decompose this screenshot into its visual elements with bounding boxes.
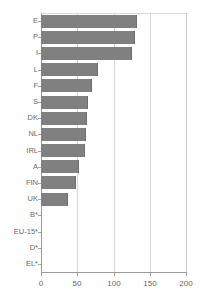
bar-F — [41, 79, 92, 92]
x-tick-label: 150 — [143, 279, 156, 289]
bar-E — [41, 15, 137, 28]
category-label-IRL: IRL — [26, 147, 38, 155]
x-tick-100 — [114, 272, 115, 276]
category-tick — [38, 264, 41, 265]
category-label-EU-15star: EU-15* — [14, 228, 38, 236]
category-tick — [38, 232, 41, 233]
plot-right-border — [186, 13, 187, 273]
bar-IRL — [41, 144, 85, 157]
bar-NL — [41, 128, 86, 141]
category-tick — [38, 248, 41, 249]
bar-FIN — [41, 176, 76, 189]
bar-chart: 050100150200 EPILFSDKNLIRLAFINUKB*EU-15*… — [0, 0, 204, 303]
bar-I — [41, 47, 132, 60]
x-tick-label: 50 — [73, 279, 82, 289]
category-tick — [38, 215, 41, 216]
x-tick-label: 200 — [179, 279, 192, 289]
bar-DK — [41, 112, 87, 125]
bar-P — [41, 31, 135, 44]
category-label-FIN: FIN — [26, 179, 38, 187]
bar-S — [41, 96, 88, 109]
x-tick-150 — [150, 272, 151, 276]
x-tick-label: 100 — [107, 279, 120, 289]
category-label-UK: UK — [28, 195, 38, 203]
x-tick-label: 0 — [39, 279, 43, 289]
category-label-DK: DK — [28, 114, 38, 122]
category-label-ELstar: EL* — [26, 260, 38, 268]
category-label-Dstar: D* — [30, 244, 38, 252]
bar-L — [41, 63, 98, 76]
bar-UK — [41, 193, 68, 206]
bar-A — [41, 160, 79, 173]
x-tick-50 — [77, 272, 78, 276]
category-label-NL: NL — [28, 130, 38, 138]
gridline-150 — [150, 13, 151, 272]
x-tick-200 — [186, 272, 187, 276]
category-label-Bstar: B* — [30, 211, 38, 219]
x-tick-0 — [41, 272, 42, 276]
